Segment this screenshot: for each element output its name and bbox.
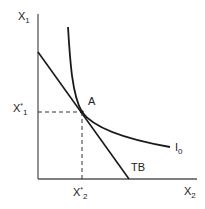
indifference-curve-label: I0 <box>175 142 183 156</box>
diagram-canvas <box>0 0 205 209</box>
tangency-point <box>80 110 84 114</box>
x-axis-label: X2 <box>184 186 196 200</box>
x2-star-label: X*2 <box>73 186 88 201</box>
budget-line <box>38 52 129 179</box>
point-a-label: A <box>88 96 95 107</box>
y-axis-label: X1 <box>18 11 30 25</box>
x1-star-label: X*1 <box>13 102 28 117</box>
indifference-curve <box>68 27 170 147</box>
budget-line-label: TB <box>131 162 145 173</box>
